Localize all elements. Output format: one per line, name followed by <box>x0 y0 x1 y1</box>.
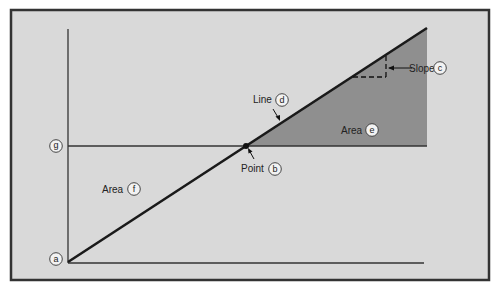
label-letter-d: d <box>279 95 284 105</box>
label-letter-a: a <box>53 254 58 264</box>
line-label: Line <box>253 94 272 105</box>
point-label: Point <box>241 163 264 174</box>
label-letter-e: e <box>369 125 374 135</box>
area-e-label: Area <box>341 125 363 136</box>
area-f-label: Area <box>102 184 124 195</box>
label-letter-g: g <box>53 140 58 150</box>
diagram-canvas: Slope c Line d Area e Point b Area f g a <box>0 0 500 293</box>
label-letter-c: c <box>438 63 443 73</box>
slope-label: Slope <box>409 63 435 74</box>
label-letter-b: b <box>272 164 277 174</box>
